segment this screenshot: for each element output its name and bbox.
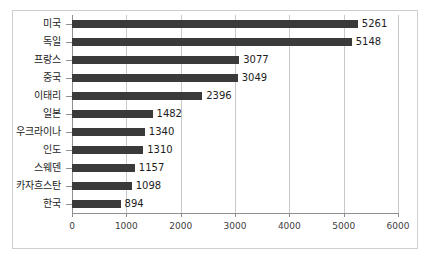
bar-row[interactable]: 미국5261 [13,15,417,33]
category-label: 미국 [12,15,61,33]
bar-row[interactable]: 독일5148 [13,33,417,51]
x-tick-0 [72,213,73,217]
category-label: 한국 [12,195,61,213]
bar[interactable] [72,128,145,136]
x-tick-6000 [398,213,399,217]
bar-value-label: 1310 [143,141,172,159]
bar-value-label: 894 [121,195,144,213]
bar[interactable] [72,74,238,82]
bar-row[interactable]: 인도1310 [13,141,417,159]
bar-row[interactable]: 일본1482 [13,105,417,123]
category-label: 카자흐스탄 [12,177,61,195]
category-label: 이태리 [12,87,61,105]
bar[interactable] [72,146,143,154]
bar[interactable] [72,92,202,100]
category-label: 프랑스 [12,51,61,69]
category-label: 일본 [12,105,61,123]
category-label: 독일 [12,33,61,51]
bar-row[interactable]: 중국3049 [13,69,417,87]
bar-value-label: 1340 [145,123,174,141]
bar-value-label: 5261 [358,15,387,33]
category-label: 우크라이나 [12,123,61,141]
category-label: 스웨덴 [12,159,61,177]
bar-value-label: 5148 [352,33,381,51]
x-tick-label: 6000 [368,221,418,232]
bar[interactable] [72,38,352,46]
x-tick-4000 [289,213,290,217]
x-tick-label: 1000 [96,221,156,232]
bar[interactable] [72,200,121,208]
x-tick-5000 [344,213,345,217]
bar-row[interactable]: 프랑스3077 [13,51,417,69]
chart-container: 미국5261독일5148프랑스3077중국3049이태리2396일본1482우크… [12,10,418,249]
bar-value-label: 3049 [238,69,267,87]
x-tick-label: 2000 [151,221,211,232]
bar[interactable] [72,110,153,118]
x-tick-1000 [126,213,127,217]
bar-value-label: 2396 [202,87,231,105]
bar[interactable] [72,182,132,190]
bar-value-label: 1098 [132,177,161,195]
x-tick-label: 0 [42,221,102,232]
x-tick-label: 3000 [205,221,265,232]
bar-row[interactable]: 이태리2396 [13,87,417,105]
x-tick-2000 [181,213,182,217]
x-tick-3000 [235,213,236,217]
bar-row[interactable]: 우크라이나1340 [13,123,417,141]
bar-row[interactable]: 한국894 [13,195,417,213]
bar[interactable] [72,164,135,172]
x-tick-label: 5000 [314,221,374,232]
bar-value-label: 1482 [153,105,182,123]
category-label: 인도 [12,141,61,159]
bar-row[interactable]: 카자흐스탄1098 [13,177,417,195]
bar-value-label: 3077 [239,51,268,69]
bar[interactable] [72,20,358,28]
bar-value-label: 1157 [135,159,164,177]
x-tick-label: 4000 [259,221,319,232]
bar-row[interactable]: 스웨덴1157 [13,159,417,177]
category-label: 중국 [12,69,61,87]
bar[interactable] [72,56,239,64]
